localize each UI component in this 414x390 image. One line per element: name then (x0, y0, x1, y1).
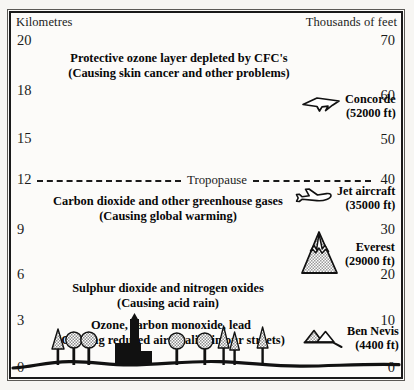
left-tick-6: 6 (17, 267, 24, 282)
right-tick-70: 70 (381, 33, 396, 48)
band-greenhouse: Carbon dioxide and other greenhouse gase… (25, 194, 311, 223)
callout-jet-aircraft-label: Jet aircraft (337, 184, 395, 198)
callout-everest-altitude: (29000 ft) (345, 255, 395, 269)
band-greenhouse-line1: Carbon dioxide and other greenhouse gase… (53, 194, 283, 208)
callout-concorde-label: Concorde (345, 92, 396, 106)
band-acid-rain: Sulphur dioxide and nitrogen oxides (Cau… (25, 281, 311, 310)
ground-silhouette (11, 313, 401, 377)
band-acid-rain-line2: (Causing acid rain) (25, 296, 311, 311)
everest-icon (299, 230, 341, 280)
tree-conifer-2 (218, 326, 229, 365)
callout-everest-label: Everest (356, 240, 395, 254)
tropopause-dash-left (37, 180, 181, 182)
callout-jet-aircraft-caption: Jet aircraft (35000 ft) (337, 185, 395, 212)
tree-conifer-3 (230, 332, 240, 365)
left-tick-18: 18 (17, 83, 32, 98)
left-axis-title: Kilometres (16, 15, 73, 30)
atmosphere-pollution-diagram: Kilometres Thousands of feet 20 18 15 12… (0, 0, 414, 390)
band-ozone-layer-line1: Protective ozone layer depleted by CFC's (70, 51, 287, 65)
band-acid-rain-line1: Sulphur dioxide and nitrogen oxides (72, 281, 264, 295)
callout-concorde-altitude: (52000 ft) (345, 107, 396, 121)
callout-concorde-caption: Concorde (52000 ft) (345, 93, 396, 120)
callout-jet-aircraft-altitude: (35000 ft) (337, 199, 395, 213)
left-tick-9: 9 (17, 222, 24, 237)
callout-jet-aircraft: Jet aircraft (35000 ft) (295, 185, 395, 212)
left-tick-15: 15 (17, 131, 32, 146)
tree-conifer-4 (257, 327, 268, 365)
tree-broadleaf-3 (169, 333, 185, 365)
tropopause-label: Tropopause (185, 173, 249, 188)
band-ozone-layer-line2: (Causing skin cancer and other problems) (29, 66, 329, 81)
tropopause-dash-right (253, 180, 371, 182)
callout-everest-caption: Everest (29000 ft) (345, 241, 395, 268)
band-greenhouse-line2: (Causing global warming) (25, 209, 311, 224)
building-with-chimney (115, 313, 152, 365)
tree-broadleaf-2 (81, 332, 97, 365)
jet-aircraft-icon (295, 186, 333, 212)
right-axis-title: Thousands of feet (306, 15, 397, 30)
callout-everest: Everest (29000 ft) (299, 230, 395, 280)
left-tick-20: 20 (17, 33, 32, 48)
concorde-icon (301, 94, 341, 120)
band-ozone-layer: Protective ozone layer depleted by CFC's… (29, 51, 329, 80)
right-tick-50: 50 (381, 132, 396, 147)
callout-concorde: Concorde (52000 ft) (301, 93, 396, 120)
left-tick-12: 12 (17, 172, 32, 187)
tree-conifer-1 (52, 329, 64, 365)
plot-area: Kilometres Thousands of feet 20 18 15 12… (11, 13, 401, 377)
